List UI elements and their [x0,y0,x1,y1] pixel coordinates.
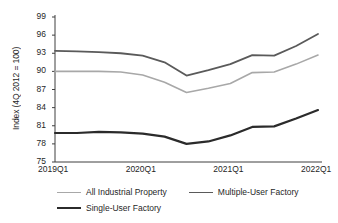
line-chart: Index (4Q 2012 = 100) 999693908784817875… [0,0,338,223]
legend-swatch-single-user-factory [57,207,81,209]
legend-item-multiple-user-factory[interactable]: Multiple-User Factory [189,187,299,197]
legend-item-all-industrial-property[interactable]: All Industrial Property [57,187,167,197]
series-line-multiple-user-factory [55,34,318,76]
legend-swatch-multiple-user-factory [189,192,213,193]
chart-legend: All Industrial Property Multiple-User Fa… [0,184,338,216]
legend-label-single-user-factory: Single-User Factory [86,203,161,213]
series-line-single-user-factory [55,110,318,144]
legend-label-all-industrial-property: All Industrial Property [86,187,167,197]
legend-swatch-all-industrial-property [57,192,81,193]
legend-label-multiple-user-factory: Multiple-User Factory [218,187,299,197]
series-line-all-industrial-property [55,55,318,92]
legend-item-single-user-factory[interactable]: Single-User Factory [57,203,161,213]
